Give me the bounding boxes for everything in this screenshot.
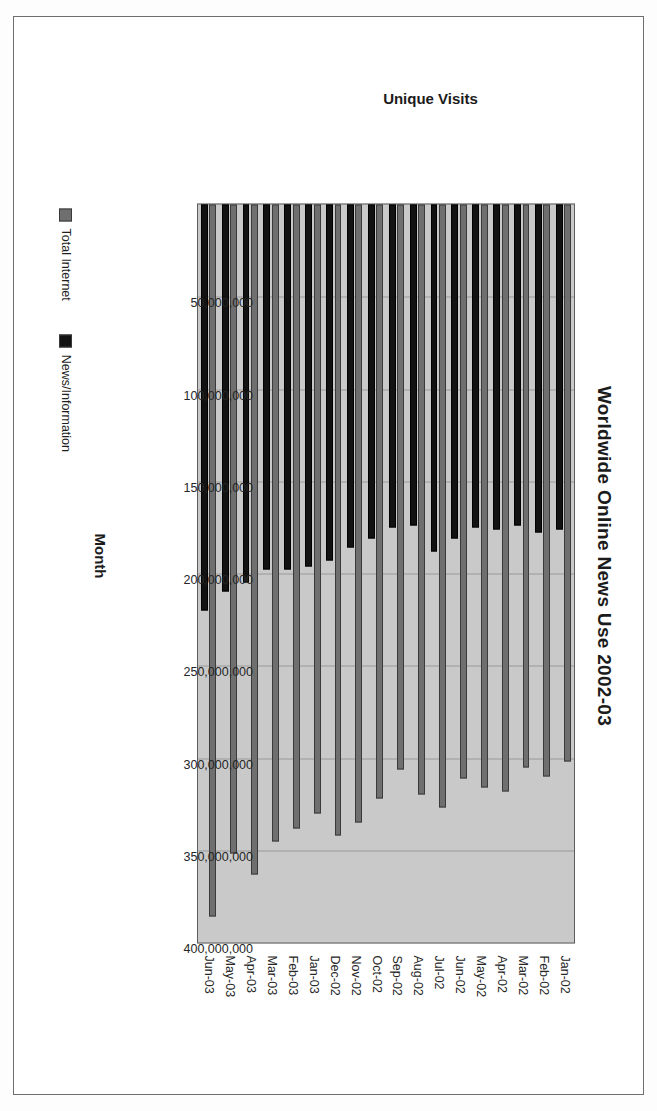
- bar-nov-02-news-information: [347, 204, 354, 547]
- bar-mar-03-news-information: [263, 204, 270, 569]
- bar-jan-03-news-information: [305, 204, 312, 566]
- bar-jun-02-news-information: [451, 204, 458, 538]
- bar-may-02-total-internet: [480, 204, 487, 787]
- bar-feb-02-news-information: [535, 204, 542, 532]
- bar-feb-03-total-internet: [292, 204, 299, 828]
- bar-jul-02-news-information: [430, 204, 437, 551]
- bar-sep-02-total-internet: [397, 204, 404, 769]
- legend-swatch-icon: [59, 208, 72, 221]
- bar-jan-03-total-internet: [313, 204, 320, 813]
- bar-jul-02-total-internet: [438, 204, 445, 807]
- rotated-chart-container: Worldwide Online News Use 2002-03 400,00…: [29, 33, 629, 1078]
- bar-jun-03-news-information: [200, 204, 207, 610]
- page-sheet: Worldwide Online News Use 2002-03 400,00…: [13, 16, 644, 1095]
- legend-swatch-icon: [59, 334, 72, 347]
- chart-title: Worldwide Online News Use 2002-03: [593, 33, 615, 1078]
- category-axis-tick: Sep-02: [390, 955, 404, 995]
- category-axis-tick: Feb-03: [286, 955, 300, 995]
- value-axis-tick: 50,000,000: [133, 295, 253, 309]
- category-axis-tick: Dec-02: [327, 955, 341, 995]
- bar-aug-02-news-information: [409, 204, 416, 525]
- bar-apr-02-total-internet: [501, 204, 508, 791]
- bar-dec-02-news-information: [326, 204, 333, 560]
- bar-oct-02-news-information: [367, 204, 374, 538]
- legend-item-news-information: News/Information: [59, 334, 73, 451]
- category-axis-tick: Jun-03: [202, 955, 216, 993]
- category-axis-tick: May-03: [223, 955, 237, 997]
- bar-jun-02-total-internet: [459, 204, 466, 778]
- bar-sep-02-news-information: [388, 204, 395, 527]
- category-axis-tick: Apr-02: [494, 955, 508, 993]
- bar-mar-02-news-information: [514, 204, 521, 525]
- bar-may-02-news-information: [472, 204, 479, 527]
- category-axis-tick: Oct-02: [369, 955, 383, 993]
- value-axis-tick: 300,000,000: [133, 757, 253, 771]
- value-axis-tick: 150,000,000: [133, 480, 253, 494]
- category-axis-tick: Nov-02: [348, 955, 362, 995]
- value-axis-title: Unique Visits: [383, 90, 478, 107]
- bar-mar-02-total-internet: [522, 204, 529, 767]
- value-axis-tick: 250,000,000: [133, 664, 253, 678]
- bar-dec-02-total-internet: [334, 204, 341, 835]
- category-axis-tick: Jan-02: [557, 955, 571, 993]
- bar-feb-03-news-information: [284, 204, 291, 569]
- category-axis-tick: Mar-02: [515, 955, 529, 995]
- category-axis-tick: May-02: [474, 955, 488, 997]
- bar-feb-02-total-internet: [543, 204, 550, 776]
- category-axis-tick: Jul-02: [432, 955, 446, 989]
- legend-item-total-internet: Total Internet: [59, 208, 73, 300]
- bar-oct-02-total-internet: [376, 204, 383, 798]
- value-axis-tick: 100,000,000: [133, 388, 253, 402]
- value-axis-tick: 200,000,000: [133, 572, 253, 586]
- bar-mar-03-total-internet: [271, 204, 278, 841]
- bar-nov-02-total-internet: [355, 204, 362, 822]
- bar-chart: Worldwide Online News Use 2002-03 400,00…: [29, 33, 629, 1078]
- bar-jun-03-total-internet: [209, 204, 216, 916]
- bar-aug-02-total-internet: [418, 204, 425, 794]
- bar-jan-02-total-internet: [564, 204, 571, 761]
- legend-label: Total Internet: [59, 228, 73, 300]
- category-axis-tick: Aug-02: [411, 955, 425, 995]
- value-axis-tick: 400,000,000: [133, 941, 253, 955]
- legend-label: News/Information: [59, 354, 73, 451]
- bars-layer: [198, 204, 574, 942]
- bar-jan-02-news-information: [555, 204, 562, 529]
- plot-area: [197, 203, 575, 943]
- category-axis-tick: Mar-03: [265, 955, 279, 995]
- legend: Total Internet News/Information: [59, 208, 73, 452]
- value-axis-tick: 350,000,000: [133, 849, 253, 863]
- scanned-page: Worldwide Online News Use 2002-03 400,00…: [0, 0, 657, 1111]
- category-axis-tick: Jun-02: [453, 955, 467, 993]
- bar-apr-02-news-information: [493, 204, 500, 529]
- category-axis-tick: Feb-02: [536, 955, 550, 995]
- category-axis-title: Month: [92, 33, 109, 1078]
- category-axis-tick: Apr-03: [244, 955, 258, 993]
- category-axis-tick: Jan-03: [306, 955, 320, 993]
